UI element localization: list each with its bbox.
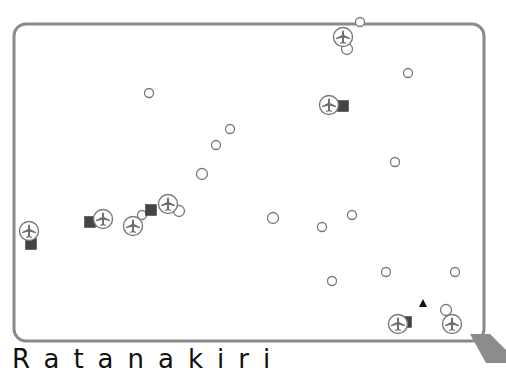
poi-circle-icon[interactable] — [328, 277, 337, 286]
airport-icon[interactable] — [94, 210, 113, 229]
callout-pointer — [470, 334, 506, 363]
station-square-icon[interactable] — [146, 205, 157, 216]
poi-circle-icon[interactable] — [268, 213, 279, 224]
airport-icon[interactable] — [389, 315, 408, 334]
poi-circle-icon[interactable] — [197, 169, 208, 180]
poi-circle-icon[interactable] — [356, 18, 365, 27]
airport-icon[interactable] — [159, 195, 178, 214]
airport-icon[interactable] — [443, 315, 462, 334]
poi-circle-icon[interactable] — [451, 268, 460, 277]
map-caption: Ratanakiri — [12, 346, 284, 372]
poi-circle-icon[interactable] — [404, 69, 413, 78]
poi-circle-icon[interactable] — [226, 125, 235, 134]
poi-circle-icon[interactable] — [318, 223, 327, 232]
airport-icon[interactable] — [124, 217, 143, 236]
poi-circle-icon[interactable] — [382, 268, 391, 277]
map-frame — [14, 24, 484, 341]
poi-circle-icon[interactable] — [348, 211, 357, 220]
poi-circle-icon[interactable] — [145, 89, 154, 98]
airport-icon[interactable] — [334, 28, 353, 47]
airport-icon[interactable] — [320, 96, 339, 115]
poi-circle-icon[interactable] — [441, 305, 452, 316]
airport-icon[interactable] — [20, 222, 39, 241]
poi-circle-icon[interactable] — [212, 141, 221, 150]
poi-circle-icon[interactable] — [391, 158, 400, 167]
